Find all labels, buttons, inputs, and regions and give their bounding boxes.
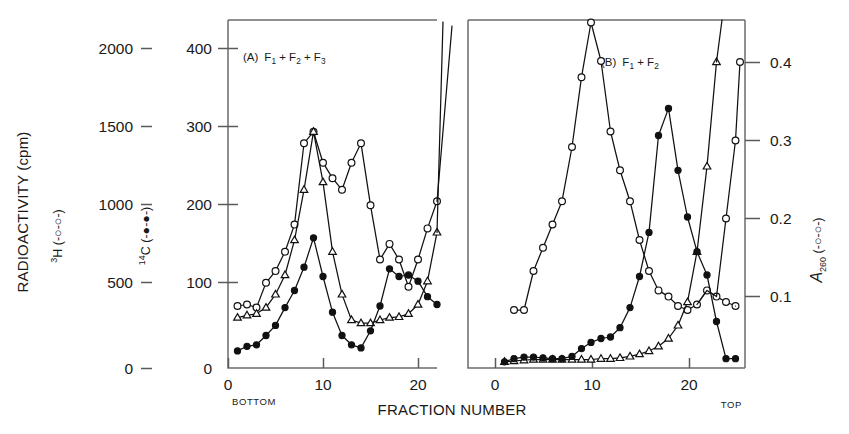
c14-tick-labels: 400 300 200 100 0 — [186, 40, 212, 377]
panel-b-h3-line — [505, 62, 717, 362]
x-axis-title: FRACTION NUMBER — [378, 401, 527, 418]
c14-axis-label-text: 14C (-●-●-) — [137, 207, 153, 265]
h3-tick-1000: 1000 — [99, 196, 134, 213]
panel-b-series-c14 — [501, 105, 738, 365]
panel-a-h3-line — [238, 132, 438, 323]
panel-b-label: (B)F1 + F2 — [601, 56, 659, 71]
h3-tick-500: 500 — [107, 274, 133, 291]
panel-a-series-c14 — [234, 235, 440, 354]
radioactivity-axis-label: RADIOACTIVITY (cpm) — [14, 131, 31, 292]
a260-tick-04: 0.4 — [770, 54, 792, 71]
a260-axis-label-text: A260 (-○-○-) — [808, 217, 828, 283]
panel-a: 0 10 20 (A)F1 + F2 + F3 — [218, 20, 452, 393]
panel-b-h3-tail — [717, 20, 723, 62]
a260-tick-01: 0.1 — [770, 288, 792, 305]
panel-a-series-h3 — [234, 128, 441, 326]
panel-a-label: (A)F1 + F2 + F3 — [243, 51, 326, 66]
panel-a-x-ticks — [229, 358, 419, 368]
panel-b-right-ticks — [745, 63, 760, 297]
h3-tick-0: 0 — [124, 360, 133, 377]
left-outer-axis-title: RADIOACTIVITY (cpm) — [14, 131, 31, 292]
h3-axis-title: 3H (-○-○-) — [49, 209, 65, 262]
panel-a-a260-markers — [234, 128, 440, 311]
h3-tick-1500: 1500 — [99, 118, 134, 135]
c14-tick-300: 300 — [186, 118, 212, 135]
panel-b-xtick-0: 0 — [491, 376, 500, 393]
panel-a-xtick-0: 0 — [224, 376, 233, 393]
x-axis-bottom-annotation: BOTTOM — [232, 396, 276, 407]
panel-b-c14-markers — [501, 105, 738, 365]
c14-axis-title: 14C (-●-●-) — [137, 207, 153, 265]
radioactivity-gradient-figure: RADIOACTIVITY (cpm) 3H (-○-○-) 14C (-●-●… — [0, 0, 849, 434]
panel-b-xtick-10: 10 — [583, 376, 601, 393]
panel-a-c14-markers — [234, 235, 440, 354]
panel-b: 0 10 20 0.4 0.3 0.2 0.1 (B)F1 + F2 — [468, 19, 792, 393]
panel-a-xtick-10: 10 — [314, 376, 332, 393]
panel-b-xtick-20: 20 — [680, 376, 698, 393]
a260-axis-title: A260 (-○-○-) — [808, 217, 828, 283]
h3-tick-2000: 2000 — [99, 40, 134, 57]
panel-b-a260-rise-markers — [723, 59, 744, 222]
panel-a-xtick-20: 20 — [409, 376, 427, 393]
h3-axis-label-text: 3H (-○-○-) — [49, 209, 65, 262]
panel-b-h3-markers — [501, 58, 721, 364]
panel-a-series-a260 — [234, 128, 440, 311]
c14-tick-200: 200 — [186, 196, 212, 213]
figure-container: RADIOACTIVITY (cpm) 3H (-○-○-) 14C (-●-●… — [0, 0, 849, 434]
panel-a-a260-tail — [437, 26, 452, 201]
c14-tick-0: 0 — [203, 360, 212, 377]
a260-tick-02: 0.2 — [770, 210, 792, 227]
panel-b-series-h3 — [501, 58, 721, 364]
panel-a-h3-markers — [234, 128, 441, 326]
a260-tick-03: 0.3 — [770, 132, 792, 149]
panel-b-c14-line — [505, 108, 736, 361]
x-axis-top-annotation: TOP — [721, 399, 742, 410]
c14-tick-400: 400 — [186, 40, 212, 57]
c14-tick-100: 100 — [186, 274, 212, 291]
